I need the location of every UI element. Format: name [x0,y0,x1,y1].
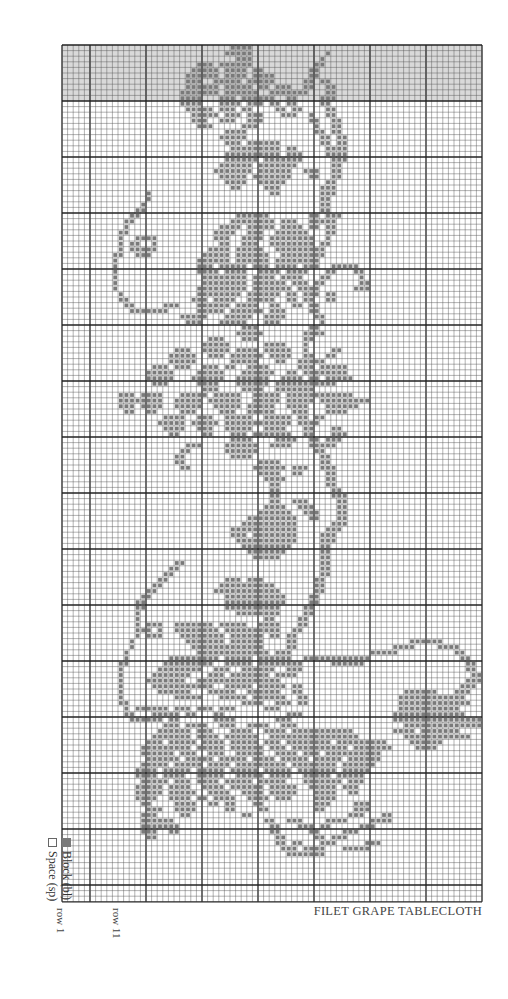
space-swatch-icon [49,838,58,847]
legend-item-block: Block (bl) [60,838,74,901]
chart-title: FILET GRAPE TABLECLOTH [314,904,482,919]
block-swatch-icon [63,838,72,847]
row-label-11: row 11 [111,908,123,938]
legend: Block (bl) Space (sp) [26,838,86,898]
row-label-1: row 1 [55,908,67,933]
legend-item-space: Space (sp) [46,838,60,901]
legend-space-label: Space (sp) [46,851,60,901]
legend-block-label: Block (bl) [60,851,74,900]
